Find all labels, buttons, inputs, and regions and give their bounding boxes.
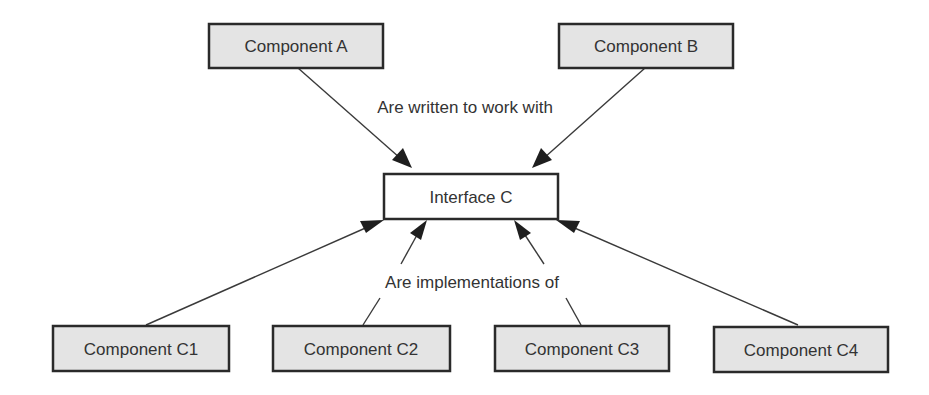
node-component-c3[interactable]: Component C3 [495,326,669,371]
node-label: Component C4 [744,341,858,360]
edge-c4-to-interface [570,226,798,325]
node-label: Component A [244,37,348,56]
edge-c2-to-interface-upper [401,235,417,264]
edge-c3-to-interface-upper [525,235,544,264]
node-label: Component C1 [84,340,198,359]
node-component-c2[interactable]: Component C2 [273,326,450,371]
arrowhead-b [532,148,552,168]
node-label: Component C3 [525,340,639,359]
node-interface-c[interactable]: Interface C [384,174,558,219]
arrowhead-c3 [514,220,531,240]
architecture-diagram: Are written to work with Are implementat… [0,0,929,395]
edge-c2-to-interface-lower [363,298,380,325]
node-component-c4[interactable]: Component C4 [714,327,888,372]
arrowhead-c4 [556,220,580,233]
arrowhead-a [392,148,412,168]
edge-c3-to-interface-lower [566,298,581,325]
arrowhead-c2 [410,220,427,240]
node-label: Component B [594,37,698,56]
edge-c1-to-interface [146,226,370,325]
node-component-b[interactable]: Component B [559,24,733,68]
edge-label-implements: Are implementations of [385,273,559,292]
arrowhead-c1 [360,220,384,233]
edge-b-to-interface [544,68,645,158]
node-component-c1[interactable]: Component C1 [53,326,229,371]
node-component-a[interactable]: Component A [209,24,383,68]
node-label: Interface C [429,188,512,207]
node-label: Component C2 [304,340,418,359]
edge-label-uses: Are written to work with [377,98,553,117]
